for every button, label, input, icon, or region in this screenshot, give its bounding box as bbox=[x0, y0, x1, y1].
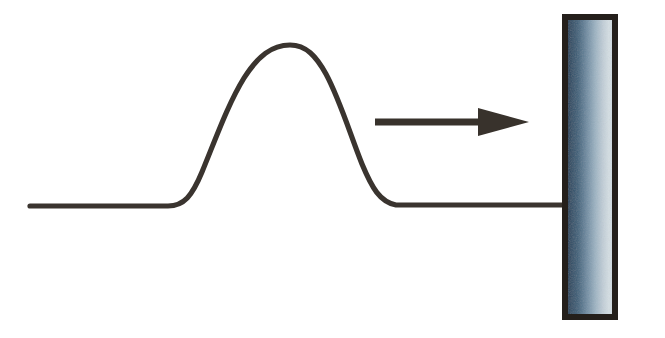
diagram-canvas: Transverse wave pulse travelling along a… bbox=[0, 0, 665, 338]
direction-arrow-shaft bbox=[375, 119, 484, 126]
wall-fill bbox=[568, 20, 612, 314]
wave-pulse-diagram: Transverse wave pulse travelling along a… bbox=[0, 0, 665, 338]
